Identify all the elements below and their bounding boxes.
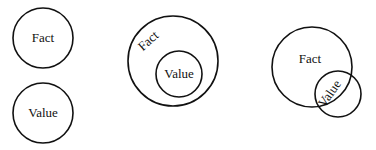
diagram-svg: Fact Value Fact Value Fact Value (0, 0, 376, 150)
panel-overlapping: Fact Value (272, 27, 361, 117)
value-label: Value (164, 66, 194, 81)
fact-circle (272, 27, 352, 107)
fact-label: Fact (299, 51, 322, 66)
panel-nested: Fact Value (128, 16, 218, 106)
fact-value-diagram: Fact Value Fact Value Fact Value (0, 0, 376, 150)
fact-outer-circle (128, 16, 218, 106)
value-label: Value (28, 105, 58, 120)
fact-label: Fact (32, 30, 55, 45)
panel-separate: Fact Value (13, 8, 73, 143)
